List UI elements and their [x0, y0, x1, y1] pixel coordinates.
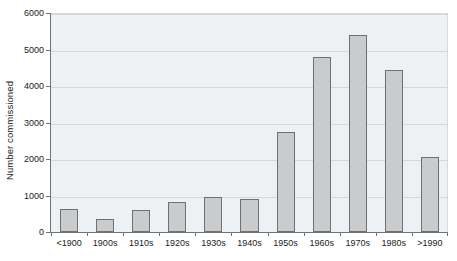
bar	[96, 219, 114, 232]
x-axis-tick-labels: <19001900s1910s1920s1930s1940s1950s1960s…	[51, 238, 448, 254]
x-axis-tick-label: 1900s	[93, 238, 118, 248]
bar	[60, 209, 78, 232]
bar	[385, 70, 403, 232]
x-axis-tick-label: >1990	[417, 238, 442, 248]
x-axis-tick-mark	[123, 233, 124, 236]
bar	[204, 197, 222, 232]
bar	[132, 210, 150, 232]
x-axis-tick-mark	[195, 233, 196, 236]
y-axis-tick-label: 5000	[16, 45, 44, 55]
x-axis-tick-label: 1970s	[346, 238, 371, 248]
y-axis-tick-label: 6000	[16, 8, 44, 18]
x-axis-tick-mark	[304, 233, 305, 236]
x-axis-tick-label: <1900	[56, 238, 81, 248]
y-axis-tick-label: 1000	[16, 191, 44, 201]
x-axis-tick-mark	[231, 233, 232, 236]
y-axis-tick-label: 4000	[16, 81, 44, 91]
x-axis-tick-mark	[51, 233, 52, 236]
x-axis-tick-label: 1960s	[309, 238, 334, 248]
x-axis-tick-mark	[340, 233, 341, 236]
y-axis-tick-label: 3000	[16, 118, 44, 128]
bars-layer	[51, 14, 447, 232]
y-axis-tick-labels: 0100020003000400050006000	[16, 13, 44, 232]
x-axis-tick-marks	[51, 233, 448, 237]
x-axis-tick-mark	[268, 233, 269, 236]
x-axis-tick-label: 1980s	[382, 238, 407, 248]
y-axis-tick-label: 2000	[16, 154, 44, 164]
x-axis-tick-mark	[447, 233, 448, 236]
x-axis-tick-label: 1940s	[237, 238, 262, 248]
x-axis-tick-label: 1920s	[165, 238, 190, 248]
x-axis-tick-mark	[376, 233, 377, 236]
bar	[168, 202, 186, 232]
x-axis-tick-label: 1910s	[129, 238, 154, 248]
bar	[240, 199, 258, 232]
x-axis-tick-mark	[87, 233, 88, 236]
bar	[349, 35, 367, 232]
x-axis-tick-mark	[412, 233, 413, 236]
bar	[277, 132, 295, 232]
bar	[313, 57, 331, 232]
x-axis-tick-mark	[159, 233, 160, 236]
bar	[421, 157, 439, 232]
x-axis-tick-label: 1930s	[201, 238, 226, 248]
x-axis-tick-label: 1950s	[273, 238, 298, 248]
bar-chart-figure: Number commissioned 01000200030004000500…	[0, 0, 457, 261]
y-axis-tick-label: 0	[16, 227, 44, 237]
plot-area	[51, 13, 448, 232]
